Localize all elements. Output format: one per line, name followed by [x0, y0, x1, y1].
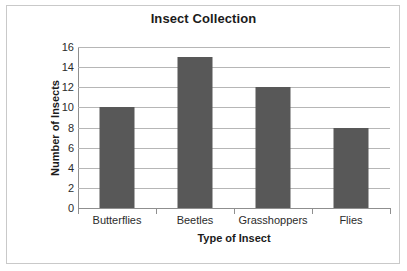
x-axis-category-label: Grasshoppers	[238, 213, 307, 227]
chart-title: Insect Collection	[0, 11, 407, 26]
bar	[256, 87, 291, 208]
y-axis-tick-label: 12	[50, 82, 74, 93]
x-axis-tick	[390, 208, 391, 214]
plot-area	[78, 47, 390, 208]
chart-container: Insect Collection Number of Insects 0246…	[0, 0, 407, 271]
x-axis-title: Type of Insect	[78, 232, 390, 244]
bar-slot	[312, 47, 390, 208]
y-axis-tick-label: 6	[50, 142, 74, 153]
y-axis-tick-label: 10	[50, 102, 74, 113]
bar	[100, 107, 135, 208]
x-axis-category-labels: ButterfliesBeetlesGrasshoppersFlies	[78, 213, 390, 229]
y-axis-tick-label: 4	[50, 162, 74, 173]
bar	[334, 128, 369, 209]
y-axis-tick-label: 14	[50, 62, 74, 73]
x-axis-category-label: Flies	[339, 213, 362, 227]
y-axis-tick-label: 2	[50, 182, 74, 193]
x-axis-category-label: Beetles	[177, 213, 214, 227]
y-axis-title-container: Number of Insects	[26, 47, 46, 208]
y-axis-tick-labels: 0246810121416	[48, 47, 74, 208]
bar	[178, 57, 213, 208]
y-axis-tick-label: 8	[50, 122, 74, 133]
y-axis-tick-label: 16	[50, 42, 74, 53]
bar-slot	[156, 47, 234, 208]
y-axis-tick-label: 0	[50, 203, 74, 214]
bar-slot	[234, 47, 312, 208]
bar-slot	[78, 47, 156, 208]
x-axis-category-label: Butterflies	[93, 213, 142, 227]
